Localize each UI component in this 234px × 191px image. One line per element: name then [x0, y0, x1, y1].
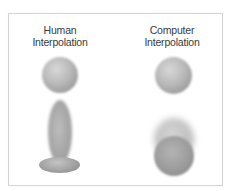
title-line: Interpolation	[10, 36, 110, 48]
computer-interpolation-title: Computer Interpolation	[122, 24, 222, 48]
computer-ball-top	[155, 57, 192, 94]
title-line: Human	[10, 24, 110, 36]
human-ball-top	[42, 57, 78, 93]
computer-ball-bottom	[154, 136, 194, 176]
human-ball-stretched	[48, 100, 72, 164]
human-ball-squashed	[39, 157, 80, 173]
title-line: Interpolation	[122, 36, 222, 48]
human-interpolation-title: Human Interpolation	[10, 24, 110, 48]
title-line: Computer	[122, 24, 222, 36]
